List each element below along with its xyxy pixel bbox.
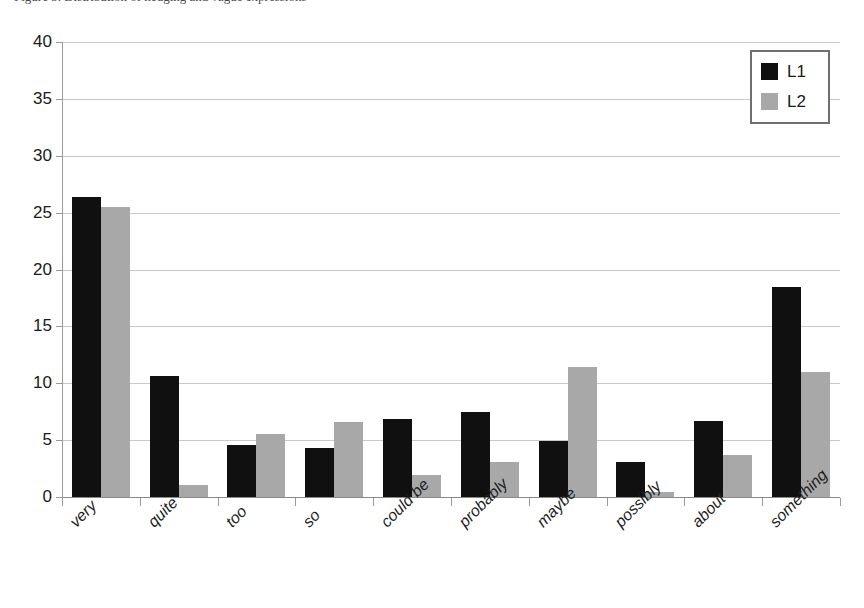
x-axis-tick-label: very (66, 497, 100, 531)
x-axis-tick-label: possibly (611, 477, 665, 531)
x-axis-tick-mark (218, 498, 219, 506)
y-axis-tick-mark (56, 326, 63, 327)
y-axis-tick-mark (56, 213, 63, 214)
x-axis-tick-mark (451, 498, 452, 506)
y-axis-tick-mark (56, 440, 63, 441)
x-axis-tick-mark (840, 498, 841, 506)
legend-entry: L2 (761, 90, 806, 112)
x-axis-tick-mark (295, 498, 296, 506)
x-axis-tick-mark (607, 498, 608, 506)
legend-swatch-icon (761, 93, 778, 110)
x-axis-tick-labels: veryquitetoosocould beprobablymaybepossi… (0, 0, 864, 608)
chart-legend: L1L2 (750, 50, 830, 124)
legend-label: L1 (787, 63, 806, 80)
x-axis-tick-label: so (300, 506, 325, 531)
x-axis-tick-mark (140, 498, 141, 506)
x-axis-tick-label: something (766, 466, 831, 531)
x-axis-tick-label: too (222, 503, 250, 531)
x-axis-tick-label: quite (144, 494, 181, 531)
x-axis-tick-label: could be (377, 475, 433, 531)
grouped-bar-chart: 4035302520151050 veryquitetoosocould bep… (0, 0, 864, 608)
legend-swatch-icon (761, 63, 778, 80)
x-axis-tick-label: probably (455, 475, 511, 531)
legend-entry: L1 (761, 60, 806, 82)
x-axis-tick-mark (62, 498, 63, 506)
x-axis-tick-label: about (689, 490, 730, 531)
y-axis-tick-mark (56, 99, 63, 100)
y-axis-tick-mark (56, 156, 63, 157)
x-axis-tick-mark (373, 498, 374, 506)
x-axis-tick-mark (529, 498, 530, 506)
y-axis-tick-mark (56, 270, 63, 271)
x-axis-tick-mark (762, 498, 763, 506)
legend-label: L2 (787, 93, 806, 110)
y-axis-tick-mark (56, 383, 63, 384)
x-axis-tick-mark (684, 498, 685, 506)
x-axis-tick-label: maybe (533, 484, 580, 531)
y-axis-tick-mark (56, 42, 63, 43)
